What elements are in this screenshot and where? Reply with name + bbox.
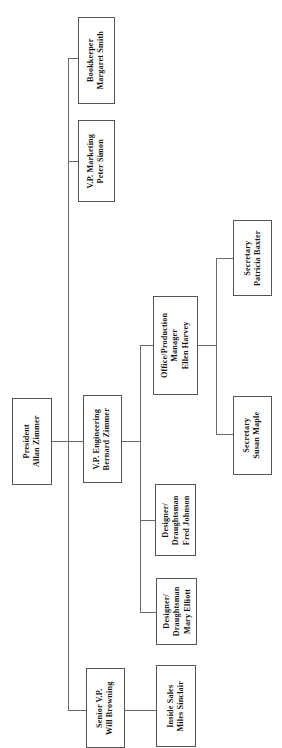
node-designer-johnson-text: Designer/ Draughtsman Fred Johnson bbox=[160, 495, 191, 545]
node-senior-vp-text: Senior V.P. Will Browning bbox=[95, 681, 116, 734]
node-designer-elliott-name: Mary Elliott bbox=[182, 587, 192, 637]
node-designer-elliott-title: Designer/ bbox=[161, 587, 171, 637]
node-secretary-baxter-title: Secretary bbox=[242, 230, 252, 286]
node-office-production-manager-subtitle: Manager bbox=[170, 313, 180, 378]
node-vp-marketing-title: V.P. Marketing bbox=[86, 134, 96, 189]
node-secretary-baxter[interactable]: Secretary Patricia Baxter bbox=[233, 220, 272, 296]
node-senior-vp-title: Senior V.P. bbox=[95, 681, 105, 734]
node-secretary-baxter-text: Secretary Patricia Baxter bbox=[242, 230, 263, 286]
node-designer-johnson-title: Designer/ bbox=[160, 495, 170, 545]
node-vp-engineering[interactable]: V.P. Engineering Bernard Zimmer bbox=[83, 395, 122, 483]
node-designer-elliott[interactable]: Designer/ Draughtsman Mary Elliott bbox=[156, 578, 197, 645]
node-president[interactable]: President Allan Zimmer bbox=[12, 398, 52, 485]
subtrunk-line-vp-engineering bbox=[140, 345, 141, 612]
edge-senior-vp-to-inside-sales bbox=[125, 710, 156, 711]
trunk-line-president bbox=[68, 58, 69, 711]
node-office-production-manager[interactable]: Office/Production Manager Ellen Harvey bbox=[153, 296, 198, 395]
node-inside-sales-text: Inside Sales Miles Sinclair bbox=[166, 681, 187, 732]
node-designer-elliott-text: Designer/ Draughtsman Mary Elliott bbox=[161, 587, 192, 637]
node-inside-sales-title: Inside Sales bbox=[166, 681, 176, 732]
node-vp-marketing[interactable]: V.P. Marketing Peter Simon bbox=[78, 120, 115, 202]
node-secretary-maple[interactable]: Secretary Susan Maple bbox=[233, 396, 272, 475]
node-designer-elliott-subtitle: Draughtsman bbox=[171, 587, 181, 637]
edge-to-designer-johnson bbox=[140, 520, 155, 521]
edge-to-secretary-maple bbox=[216, 434, 233, 435]
node-office-production-manager-text: Office/Production Manager Ellen Harvey bbox=[160, 313, 191, 378]
node-vp-marketing-text: V.P. Marketing Peter Simon bbox=[86, 134, 107, 189]
node-vp-engineering-name: Bernard Zimmer bbox=[103, 408, 113, 470]
node-secretary-maple-title: Secretary bbox=[242, 412, 252, 459]
node-designer-johnson-name: Fred Johnson bbox=[181, 495, 191, 545]
node-bookkeeper[interactable]: Bookkeeper Margaret Smith bbox=[78, 17, 115, 104]
node-senior-vp[interactable]: Senior V.P. Will Browning bbox=[86, 668, 125, 748]
edge-trunk-to-vp-engineering bbox=[68, 441, 83, 442]
node-bookkeeper-name: Margaret Smith bbox=[97, 31, 107, 90]
edge-president-to-trunk bbox=[52, 441, 69, 442]
node-president-name: Allan Zimmer bbox=[32, 416, 42, 468]
node-president-title: President bbox=[22, 416, 32, 468]
node-vp-engineering-title: V.P. Engineering bbox=[92, 408, 102, 470]
node-office-production-manager-name: Ellen Harvey bbox=[181, 313, 191, 378]
edge-vp-engineering-stub bbox=[122, 441, 140, 442]
node-secretary-maple-text: Secretary Susan Maple bbox=[242, 412, 263, 459]
node-inside-sales[interactable]: Inside Sales Miles Sinclair bbox=[156, 665, 196, 747]
node-bookkeeper-text: Bookkeeper Margaret Smith bbox=[86, 31, 107, 90]
edge-office-manager-stub bbox=[198, 345, 216, 346]
node-vp-engineering-text: V.P. Engineering Bernard Zimmer bbox=[92, 408, 113, 470]
edge-trunk-to-senior-vp bbox=[68, 710, 86, 711]
edge-to-designer-elliott bbox=[140, 612, 156, 613]
node-inside-sales-name: Miles Sinclair bbox=[176, 681, 186, 732]
edge-to-secretary-baxter bbox=[216, 258, 233, 259]
node-designer-johnson[interactable]: Designer/ Draughtsman Fred Johnson bbox=[155, 484, 196, 556]
node-office-production-manager-title: Office/Production bbox=[160, 313, 170, 378]
node-bookkeeper-title: Bookkeeper bbox=[86, 31, 96, 90]
subtrunk-line-office-manager bbox=[216, 258, 217, 435]
node-vp-marketing-name: Peter Simon bbox=[97, 134, 107, 189]
node-secretary-baxter-name: Patricia Baxter bbox=[253, 230, 263, 286]
node-senior-vp-name: Will Browning bbox=[106, 681, 116, 734]
node-designer-johnson-subtitle: Draughtsman bbox=[170, 495, 180, 545]
node-president-text: President Allan Zimmer bbox=[22, 416, 43, 468]
edge-to-office-production-manager bbox=[140, 345, 153, 346]
node-secretary-maple-name: Susan Maple bbox=[253, 412, 263, 459]
